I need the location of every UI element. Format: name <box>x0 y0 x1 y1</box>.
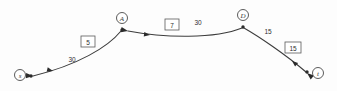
node-a[interactable]: A <box>117 13 128 24</box>
graph-svg: s A D t 30 5 30 7 15 15 <box>0 0 337 91</box>
edge-a-to-s-plain-label: 30 <box>68 56 76 63</box>
vertex-dot-t <box>305 70 308 73</box>
diagram-canvas: s A D t 30 5 30 7 15 15 <box>0 0 337 91</box>
edge-d-to-a-plain-label: 30 <box>194 19 202 26</box>
edge-d-to-t[interactable] <box>244 28 314 79</box>
edge-a-to-s-path <box>33 31 121 76</box>
edge-d-to-t-boxed-label: 15 <box>285 42 301 53</box>
node-d[interactable]: D <box>238 10 249 21</box>
vertex-dot-d <box>241 25 244 28</box>
edge-a-to-s-boxed-label: 5 <box>81 36 95 47</box>
edge-d-to-a-boxed-label: 7 <box>165 19 179 30</box>
edge-d-to-t-plain-label: 15 <box>264 28 272 35</box>
edge-d-to-a-mid-arrowhead <box>144 32 151 37</box>
vertex-dot-a <box>120 28 123 31</box>
edge-d-to-a-boxed-label-text: 7 <box>170 22 174 29</box>
edge-a-to-s-boxed-label-text: 5 <box>86 39 90 46</box>
node-a-label: A <box>119 15 125 23</box>
edge-d-to-a[interactable] <box>121 27 242 37</box>
node-s-label: s <box>19 72 22 80</box>
edge-d-to-t-boxed-label-text: 15 <box>289 45 297 52</box>
vertex-dot-s <box>29 74 32 77</box>
node-s[interactable]: s <box>15 70 26 81</box>
node-d-label: D <box>239 12 245 20</box>
node-t[interactable]: t <box>313 68 324 79</box>
